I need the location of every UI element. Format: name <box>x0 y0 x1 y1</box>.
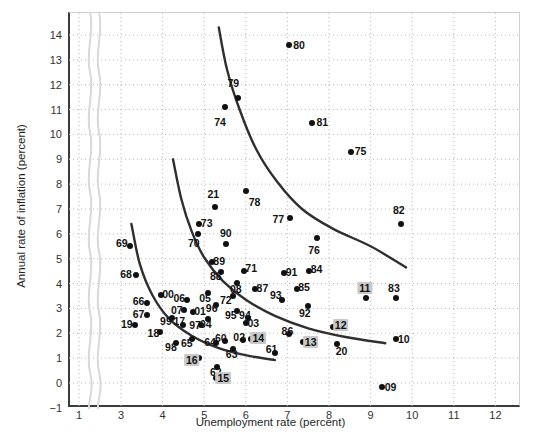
data-point-label-74: 74 <box>214 116 226 128</box>
data-point-label-69: 69 <box>116 237 128 249</box>
data-point-label-80: 80 <box>293 39 305 51</box>
data-point-label-76: 76 <box>308 244 320 256</box>
data-point-label-02: 02 <box>233 331 245 343</box>
data-point-label-12: 12 <box>333 319 349 331</box>
data-point-label-21: 21 <box>208 188 220 200</box>
data-point-74 <box>222 104 228 110</box>
data-point-label-83: 83 <box>388 282 400 294</box>
data-point-label-89: 89 <box>213 255 225 267</box>
data-point-label-03: 03 <box>247 317 259 329</box>
data-point-label-68: 68 <box>120 268 132 280</box>
y-tick-label: 9 <box>38 153 62 165</box>
y-tick-label: 1 <box>38 352 62 364</box>
y-tick-label: 10 <box>38 128 62 140</box>
y-tick-label: 12 <box>38 79 62 91</box>
data-point-75 <box>348 149 354 155</box>
data-point-78 <box>243 188 249 194</box>
axis-break-icon <box>84 12 106 409</box>
data-point-69 <box>127 243 133 249</box>
y-tick-label: 6 <box>38 228 62 240</box>
data-point-82 <box>398 221 404 227</box>
data-point-label-91: 91 <box>286 266 298 278</box>
data-point-label-19: 19 <box>121 318 133 330</box>
data-point-label-00: 00 <box>162 288 174 300</box>
chart-canvas: 13456789101112 −101234567891011121314 80… <box>0 0 541 435</box>
data-point-label-86: 86 <box>282 325 294 337</box>
data-point-label-93: 93 <box>270 289 282 301</box>
data-point-label-97: 97 <box>189 319 201 331</box>
data-point-label-16: 16 <box>184 354 200 366</box>
data-point-label-67: 67 <box>133 308 145 320</box>
data-point-label-65: 65 <box>181 337 193 349</box>
data-point-label-61: 61 <box>266 343 278 355</box>
data-point-label-20: 20 <box>336 345 348 357</box>
data-point-label-84: 84 <box>311 263 323 275</box>
data-point-label-88: 88 <box>210 270 222 282</box>
data-point-label-96: 96 <box>206 302 218 314</box>
data-point-label-92: 92 <box>299 307 311 319</box>
y-tick-label: 14 <box>38 29 62 41</box>
y-tick-label: 4 <box>38 278 62 290</box>
data-point-label-66: 66 <box>133 295 145 307</box>
data-point-label-14: 14 <box>250 332 266 344</box>
data-point-label-90: 90 <box>220 227 232 239</box>
y-tick-label: 3 <box>38 302 62 314</box>
data-point-label-11: 11 <box>357 282 372 294</box>
data-point-label-63: 63 <box>226 348 238 360</box>
y-tick-label: −1 <box>38 402 62 414</box>
data-point-label-78: 78 <box>249 196 261 208</box>
data-point-label-06: 06 <box>173 292 185 304</box>
data-point-label-18: 18 <box>148 327 160 339</box>
data-point-label-10: 10 <box>398 333 410 345</box>
plot-area <box>68 12 520 407</box>
x-axis-title: Unemployment rate (percent) <box>0 416 541 428</box>
y-tick-label: 13 <box>38 54 62 66</box>
data-point-label-17: 17 <box>173 315 185 327</box>
data-point-label-71: 71 <box>245 262 257 274</box>
data-point-label-70: 70 <box>188 237 200 249</box>
y-axis-title: Annual rate of inflation (percent) <box>15 106 27 306</box>
data-point-label-75: 75 <box>355 145 367 157</box>
data-point-label-15: 15 <box>215 372 231 384</box>
y-tick-label: 2 <box>38 327 62 339</box>
data-point-label-77: 77 <box>272 213 284 225</box>
data-point-label-81: 81 <box>317 116 329 128</box>
data-point-label-73: 73 <box>201 217 213 229</box>
data-point-19 <box>132 322 138 328</box>
data-point-label-99: 99 <box>160 315 172 327</box>
data-point-label-79: 79 <box>227 77 239 89</box>
data-point-label-01: 01 <box>194 305 206 317</box>
y-tick-label: 7 <box>38 203 62 215</box>
data-point-label-98: 98 <box>165 341 177 353</box>
y-tick-label: 0 <box>38 377 62 389</box>
data-point-90 <box>223 241 229 247</box>
data-point-68 <box>133 272 139 278</box>
data-point-label-72: 72 <box>220 294 232 306</box>
data-point-label-64: 64 <box>204 336 216 348</box>
data-point-label-82: 82 <box>393 204 405 216</box>
data-point-label-09: 09 <box>385 381 397 393</box>
data-point-label-85: 85 <box>298 281 310 293</box>
data-point-label-95: 95 <box>225 309 237 321</box>
data-point-label-87: 87 <box>257 282 269 294</box>
data-point-76 <box>314 235 320 241</box>
y-tick-label: 11 <box>38 104 62 116</box>
data-point-label-13: 13 <box>303 336 319 348</box>
y-tick-label: 8 <box>38 178 62 190</box>
y-tick-label: 5 <box>38 253 62 265</box>
data-point-label-07: 07 <box>171 304 183 316</box>
